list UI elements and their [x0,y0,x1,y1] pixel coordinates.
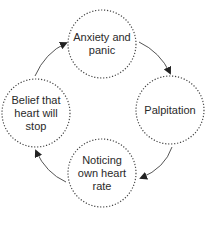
node-label-anxiety: Anxiety and panic [70,31,134,57]
arrow-anxiety-to-palpitation [139,42,170,73]
arrow-belief-to-anxiety [35,43,66,76]
node-label-noticing: Noticing own heart rate [73,154,131,193]
node-label-palpitation: Palpitation [138,104,202,117]
node-label-belief: Belief that heart will stop [7,94,65,133]
arrow-palpitation-to-noticing [141,147,172,178]
arrow-noticing-to-belief [36,151,66,182]
